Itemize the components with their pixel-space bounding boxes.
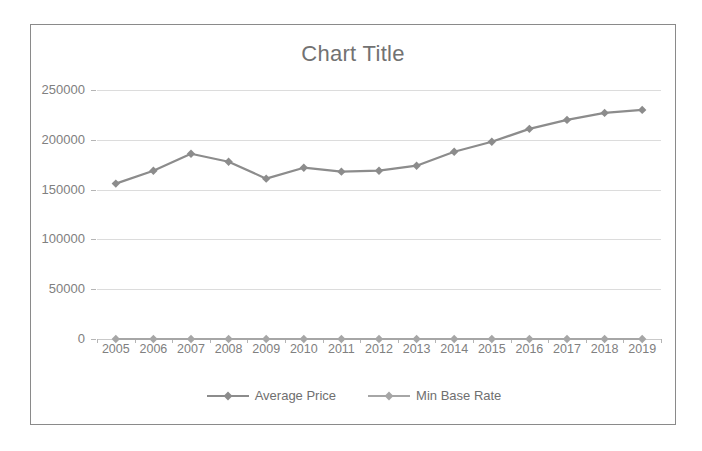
y-tick-label: 200000 [5, 132, 85, 147]
x-tick-mark [97, 339, 98, 343]
y-tick-mark [91, 190, 96, 191]
legend-label: Min Base Rate [416, 389, 501, 402]
legend-label: Average Price [255, 389, 336, 402]
x-tick-label: 2019 [628, 342, 656, 356]
legend-key-icon [366, 390, 412, 402]
data-point-marker [149, 166, 157, 174]
x-tick-label: 2012 [365, 342, 393, 356]
plot-area: 050000100000150000200000250000 200520062… [97, 90, 661, 339]
series-lines [112, 106, 647, 343]
data-point-marker [488, 138, 496, 146]
data-point-marker [638, 106, 646, 114]
y-tick-mark [91, 239, 96, 240]
x-tick-label: 2005 [102, 342, 130, 356]
y-tick-mark [91, 289, 96, 290]
data-point-marker [525, 125, 533, 133]
x-tick-label: 2006 [139, 342, 167, 356]
x-tick-label: 2010 [290, 342, 318, 356]
data-point-marker [412, 161, 420, 169]
data-point-marker [600, 109, 608, 117]
top-crop-mask [0, 0, 702, 5]
data-point-marker [300, 163, 308, 171]
legend-key-icon [205, 390, 251, 402]
x-tick-label: 2014 [440, 342, 468, 356]
x-tick-label: 2011 [328, 342, 355, 356]
x-tick-label: 2016 [515, 342, 543, 356]
y-tick-label: 150000 [5, 182, 85, 197]
y-tick-label: 50000 [5, 281, 85, 296]
y-tick-mark [91, 140, 96, 141]
x-tick-label: 2007 [177, 342, 205, 356]
y-tick-label: 0 [5, 331, 85, 346]
y-tick-label: 100000 [5, 231, 85, 246]
x-tick-label: 2015 [478, 342, 506, 356]
chart-frame: Chart Title 0500001000001500002000002500… [30, 24, 676, 425]
chart-legend: Average Price Min Base Rate [31, 389, 675, 402]
y-tick-mark [91, 90, 96, 91]
x-tick-label: 2009 [252, 342, 280, 356]
data-point-marker [563, 116, 571, 124]
y-tick-label: 250000 [5, 82, 85, 97]
x-tick-label: 2018 [591, 342, 619, 356]
data-point-marker [112, 179, 120, 187]
data-point-marker [375, 166, 383, 174]
data-point-marker [262, 174, 270, 182]
data-point-marker [224, 158, 232, 166]
legend-item[interactable]: Min Base Rate [366, 389, 501, 402]
x-tick-label: 2017 [553, 342, 581, 356]
chart-title: Chart Title [31, 41, 675, 67]
series-container [97, 90, 661, 339]
data-point-marker [337, 167, 345, 175]
legend-item[interactable]: Average Price [205, 389, 336, 402]
data-point-marker [187, 150, 195, 158]
y-tick-mark [91, 339, 96, 340]
x-tick-label: 2008 [215, 342, 243, 356]
data-point-marker [450, 148, 458, 156]
x-tick-mark [661, 339, 662, 343]
x-tick-label: 2013 [403, 342, 431, 356]
